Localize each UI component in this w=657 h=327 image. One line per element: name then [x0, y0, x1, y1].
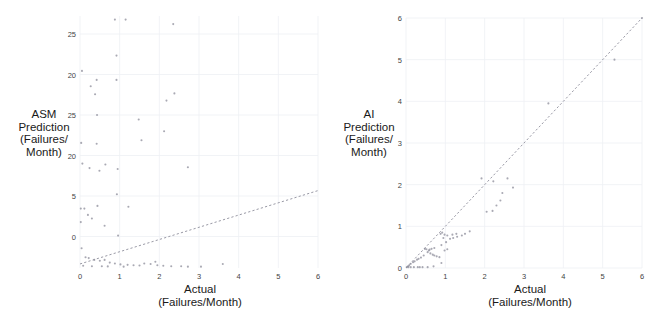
y-tick-label: 25 [58, 111, 76, 120]
y-tick-label: 5 [58, 192, 76, 201]
y-tick-label: 25 [58, 30, 76, 39]
chart-panel-asm: ASM Prediction (Failures/ Month) Actual … [0, 0, 330, 327]
x-tick-label: 3 [197, 272, 201, 281]
scatter-plot-asm [0, 0, 330, 327]
y-tick-label: 5 [384, 55, 402, 64]
x-tick-label: 0 [404, 272, 408, 281]
y-axis-title-ai: AI Prediction (Failures/ Month) [332, 108, 406, 158]
y-tick-label: 2 [384, 180, 402, 189]
x-axis-title-asm: Actual (Failures/Month) [110, 283, 290, 308]
figure-container: ASM Prediction (Failures/ Month) Actual … [0, 0, 657, 327]
x-tick-label: 5 [601, 272, 605, 281]
x-tick-label: 4 [237, 272, 241, 281]
chart-panel-ai: AI Prediction (Failures/ Month) Actual (… [330, 0, 657, 327]
y-tick-label: 0 [384, 264, 402, 273]
x-tick-label: 2 [157, 272, 161, 281]
y-tick-label: 20 [58, 70, 76, 79]
x-tick-label: 4 [561, 272, 565, 281]
x-tick-label: 3 [522, 272, 526, 281]
x-tick-label: 6 [640, 272, 644, 281]
y-tick-label: 3 [384, 139, 402, 148]
x-tick-label: 0 [78, 272, 82, 281]
y-tick-label: 4 [384, 97, 402, 106]
x-axis-title-ai: Actual (Failures/Month) [440, 283, 620, 308]
y-tick-label: 20 [58, 151, 76, 160]
y-tick-label: 6 [384, 14, 402, 23]
x-tick-label: 6 [316, 272, 320, 281]
x-tick-label: 2 [483, 272, 487, 281]
x-tick-label: 1 [443, 272, 447, 281]
scatter-plot-ai [330, 0, 657, 327]
y-tick-label: 1 [384, 222, 402, 231]
x-tick-label: 5 [276, 272, 280, 281]
x-tick-label: 1 [118, 272, 122, 281]
y-tick-label: 0 [58, 232, 76, 241]
